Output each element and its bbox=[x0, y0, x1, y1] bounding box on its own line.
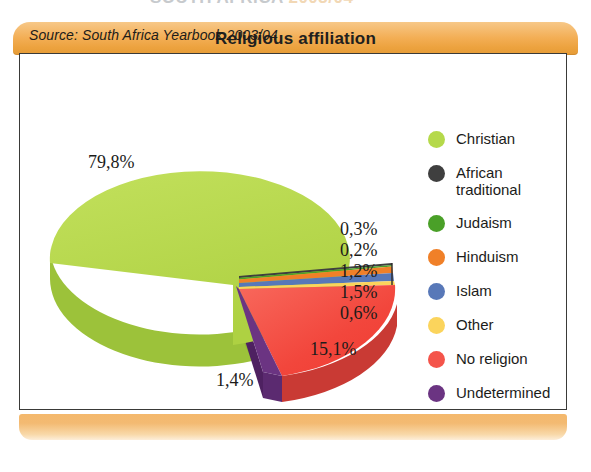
pie-label-islam: 1,5% bbox=[340, 282, 378, 303]
legend-label-undetermined: Undetermined bbox=[456, 384, 550, 401]
legend-item-undetermined[interactable]: Undetermined bbox=[428, 384, 550, 402]
pie-label-christian: 79,8% bbox=[88, 152, 135, 173]
pie-label-african-traditional: 0,3% bbox=[340, 219, 378, 240]
pie-label-undetermined: 1,4% bbox=[216, 370, 254, 391]
legend-swatch-hinduism-icon bbox=[428, 249, 445, 266]
legend-swatch-islam-icon bbox=[428, 283, 445, 300]
legend-label-no-religion: No religion bbox=[456, 350, 528, 367]
chart-legend: Christian African traditional Judaism Hi… bbox=[420, 54, 568, 411]
legend-label-islam: Islam bbox=[456, 282, 492, 299]
legend-item-african-traditional[interactable]: African traditional bbox=[428, 164, 521, 198]
chart-figure: Religious affiliation bbox=[13, 22, 578, 454]
legend-label-other: Other bbox=[456, 316, 494, 333]
source-bar bbox=[19, 414, 567, 440]
pie-label-other: 0,6% bbox=[340, 303, 378, 324]
legend-item-hinduism[interactable]: Hinduism bbox=[428, 248, 519, 266]
cropped-title-ghost-left: SOUTH AFRICA bbox=[150, 0, 283, 7]
pie-chart: 79,8% 0,3% 0,2% 1,2% 1,5% 0,6% 15,1% 1,4… bbox=[20, 54, 420, 411]
legend-swatch-christian-icon bbox=[428, 131, 445, 148]
legend-swatch-undetermined-icon bbox=[428, 385, 445, 402]
pie-label-no-religion: 15,1% bbox=[310, 339, 357, 360]
legend-swatch-other-icon bbox=[428, 317, 445, 334]
cropped-title-ghost: SOUTH AFRICA 2003/04 bbox=[150, 0, 353, 8]
legend-label-african-traditional: African traditional bbox=[456, 164, 521, 198]
cropped-page-header-remnant: SOUTH AFRICA 2003/04 bbox=[0, 0, 591, 14]
legend-label-christian: Christian bbox=[456, 130, 515, 147]
pie-slice-side-undetermined-front bbox=[263, 372, 282, 402]
pie-label-hinduism: 1,2% bbox=[340, 261, 378, 282]
legend-swatch-judaism-icon bbox=[428, 215, 445, 232]
legend-item-islam[interactable]: Islam bbox=[428, 282, 492, 300]
pie-label-judaism: 0,2% bbox=[340, 240, 378, 261]
legend-item-christian[interactable]: Christian bbox=[428, 130, 515, 148]
legend-swatch-no-religion-icon bbox=[428, 351, 445, 368]
cropped-title-ghost-right: 2003/04 bbox=[288, 0, 353, 7]
legend-swatch-african-traditional-icon bbox=[428, 165, 445, 182]
chart-panel: 79,8% 0,3% 0,2% 1,2% 1,5% 0,6% 15,1% 1,4… bbox=[19, 53, 567, 410]
legend-label-judaism: Judaism bbox=[456, 214, 512, 231]
legend-item-no-religion[interactable]: No religion bbox=[428, 350, 528, 368]
legend-label-hinduism: Hinduism bbox=[456, 248, 519, 265]
legend-item-other[interactable]: Other bbox=[428, 316, 494, 334]
legend-item-judaism[interactable]: Judaism bbox=[428, 214, 512, 232]
source-text: Source: South Africa Yearbook 2003/04 bbox=[29, 22, 278, 48]
